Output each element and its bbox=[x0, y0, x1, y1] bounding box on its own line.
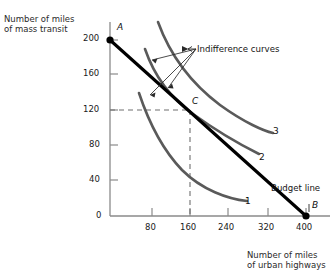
curve-3-label: 3 bbox=[273, 126, 279, 137]
point-a-marker bbox=[106, 36, 113, 43]
x-axis-title: Number of miles of urban highways bbox=[247, 250, 326, 270]
y-tick-label-0: 0 bbox=[96, 210, 101, 220]
point-b-label: B bbox=[312, 200, 318, 211]
curve-1-label: 1 bbox=[245, 196, 251, 207]
chart-figure: Number of miles of mass transit Number o… bbox=[0, 0, 336, 280]
x-axis-ticks bbox=[152, 208, 306, 216]
chart-canvas bbox=[0, 0, 336, 280]
indifference-curves-annotation: Indifference curves bbox=[197, 44, 279, 54]
y-tick-label-120: 120 bbox=[83, 104, 99, 114]
y-tick-label-200: 200 bbox=[83, 33, 99, 43]
x-tick-label-400: 400 bbox=[296, 222, 312, 232]
budget-line-annotation: Budget line bbox=[271, 183, 320, 193]
point-b-marker bbox=[302, 212, 309, 219]
x-tick-label-240: 240 bbox=[218, 222, 234, 232]
point-a-label: A bbox=[117, 22, 123, 33]
curve-2-label: 2 bbox=[259, 152, 265, 163]
y-tick-label-40: 40 bbox=[89, 174, 100, 184]
y-tick-label-160: 160 bbox=[83, 68, 99, 78]
y-axis-title: Number of miles of mass transit bbox=[4, 14, 74, 34]
x-tick-label-80: 80 bbox=[145, 222, 156, 232]
x-tick-label-160: 160 bbox=[180, 222, 196, 232]
y-tick-label-80: 80 bbox=[89, 139, 100, 149]
point-c-label: C bbox=[192, 96, 198, 107]
x-tick-label-320: 320 bbox=[258, 222, 274, 232]
indifference-curve-2 bbox=[145, 49, 259, 154]
